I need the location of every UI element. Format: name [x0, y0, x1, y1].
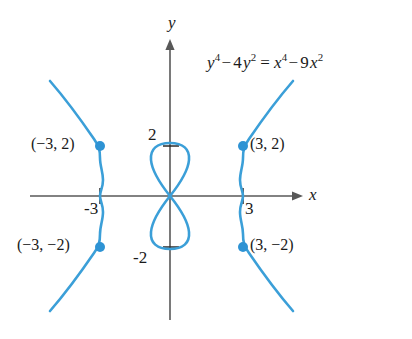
- y-axis: [165, 39, 174, 320]
- y-axis-label: y: [168, 14, 176, 31]
- point-label-3-2: (3, 2): [250, 136, 285, 152]
- y-axis-arrowhead: [165, 39, 174, 50]
- equation-annotation: y4−4y2=x4−9x2: [207, 54, 323, 71]
- equation-rhs-base2: x: [310, 53, 318, 72]
- x-tick-label-minus3: -3: [84, 200, 98, 217]
- point-marker-3-minus2: [238, 242, 248, 252]
- plot-canvas: [0, 0, 412, 339]
- x-axis-arrowhead: [292, 191, 303, 200]
- point-label-minus3-minus2: (−3, −2): [17, 237, 70, 253]
- point-marker-minus3-minus2: [95, 242, 105, 252]
- equation-minus-2: −: [287, 53, 299, 72]
- implicit-curve-figure: y x -3 3 2 -2 (−3, 2) (3, 2) (−3, −2) (3…: [0, 0, 412, 339]
- x-tick-label-3: 3: [245, 200, 254, 217]
- equation-equals: =: [256, 53, 274, 72]
- equation-lhs-base2: y: [243, 53, 251, 72]
- equation-minus-1: −: [220, 53, 232, 72]
- x-axis-label: x: [309, 186, 317, 203]
- equation-lhs-base1: y: [207, 53, 215, 72]
- point-label-minus3-2: (−3, 2): [31, 136, 75, 152]
- equation-rhs-base1: x: [274, 53, 282, 72]
- equation-rhs-coef2: 9: [299, 53, 310, 72]
- point-label-3-minus2: (3, −2): [250, 237, 294, 253]
- y-tick-label-2: 2: [148, 126, 157, 143]
- point-marker-minus3-2: [95, 141, 105, 151]
- equation-lhs-coef2: 4: [232, 53, 243, 72]
- equation-rhs-exp2: 2: [318, 51, 324, 63]
- point-marker-3-2: [238, 141, 248, 151]
- y-tick-label-minus2: -2: [133, 249, 147, 266]
